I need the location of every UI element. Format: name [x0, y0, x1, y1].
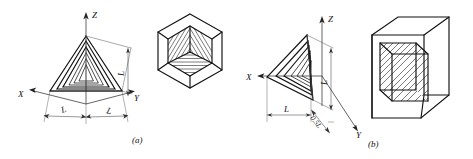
- panel-b-dimension-vertical-L: [329, 48, 333, 111]
- dimension-label-half-L-b: 0.5L: [308, 114, 323, 130]
- dim-arrow-right-a2: [123, 114, 129, 119]
- axis-label-x-b: X: [245, 72, 252, 82]
- figure-page: Z X Y: [0, 0, 473, 159]
- panel-a-pictorial-hexagon: [153, 14, 223, 88]
- panel-b-axis-x: [257, 73, 322, 78]
- dim-arrow-left-a1: [44, 114, 50, 119]
- axis-label-z-a: Z: [92, 10, 98, 20]
- axis-label-y-a: Y: [134, 93, 140, 103]
- panel-b-axonometric-axes: Z X Y: [245, 14, 362, 140]
- panel-b-nested-triangles: [267, 35, 313, 100]
- panel-a-nested-triangles: [50, 36, 122, 91]
- technical-drawing-svg: Z X Y: [0, 0, 473, 159]
- dimension-label-L-horizontal-b: L: [283, 104, 289, 114]
- axis-x-arrowhead-a: [29, 88, 36, 93]
- caption-b: (b): [368, 139, 379, 149]
- axis-label-x-a: X: [17, 89, 24, 99]
- dimension-label-L-left-a: L: [59, 104, 68, 115]
- dimension-label-L-right-a: L: [104, 105, 113, 116]
- axis-label-y-b: Y: [356, 130, 362, 140]
- panel-a-axis-x: [29, 88, 86, 104]
- dim-arrow-left-a2: [86, 114, 92, 119]
- dim-arrow-right-a1: [81, 114, 87, 119]
- dimension-label-L-vertical-b: L: [319, 80, 329, 86]
- axis-label-z-b: Z: [328, 14, 334, 24]
- caption-a: (a): [132, 135, 143, 145]
- panel-b-pictorial-oblique-cube: [372, 17, 449, 118]
- dimension-label-L-vertical-a: L: [116, 71, 126, 77]
- panel-a-axonometric-axes: Z X Y: [17, 10, 140, 124]
- panel-b-axis-z: [319, 16, 324, 106]
